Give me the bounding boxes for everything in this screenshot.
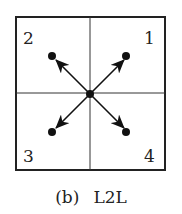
quadrant-label-2: 2	[23, 28, 34, 48]
quadrant-label-3: 3	[23, 146, 34, 166]
arrow-to-quadrant-2	[56, 60, 90, 94]
figure-caption: (b)L2L	[0, 187, 182, 207]
quadrant-diagram: 1 2 3 4	[0, 0, 182, 214]
center-node	[86, 90, 94, 98]
node-quadrant-4	[122, 128, 130, 136]
arrow-to-quadrant-1	[90, 60, 124, 94]
caption-sublabel: (b)	[55, 187, 79, 207]
node-quadrant-3	[48, 128, 56, 136]
node-quadrant-1	[122, 52, 130, 60]
quadrant-label-1: 1	[144, 28, 155, 48]
caption-title: L2L	[93, 187, 126, 207]
quadrant-label-4: 4	[144, 146, 155, 166]
arrow-to-quadrant-3	[56, 94, 90, 128]
arrow-to-quadrant-4	[90, 94, 124, 128]
node-quadrant-2	[48, 52, 56, 60]
